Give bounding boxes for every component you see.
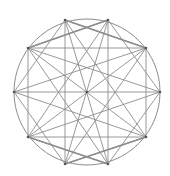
vertex-point-B1	[64, 163, 67, 166]
vertex-point-T1	[64, 19, 67, 22]
star-polygon-figure	[0, 0, 170, 176]
geometric-diagram	[0, 0, 170, 176]
vertex-point-R1	[145, 47, 148, 50]
chord-B1-L	[14, 92, 65, 164]
vertex-point-T2	[107, 19, 110, 22]
chord-R-L1	[28, 48, 160, 92]
vertex-point-R2	[145, 136, 148, 139]
vertex-point-L1	[27, 47, 30, 50]
chord-T1-L	[14, 20, 65, 92]
vertex-point-L	[13, 91, 16, 94]
chord-L-R1	[14, 48, 146, 92]
chord-B2-R	[108, 92, 160, 164]
vertex-point-R	[159, 91, 162, 94]
chord-T2-R	[108, 20, 160, 92]
chord-R-L2	[28, 92, 160, 137]
chord-L-R2	[14, 92, 146, 137]
vertex-point-L2	[27, 136, 30, 139]
vertex-point-B2	[107, 163, 110, 166]
vertex-point-C	[86, 91, 89, 94]
